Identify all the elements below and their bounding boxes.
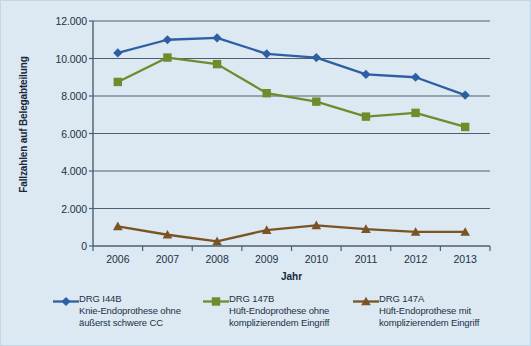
x-tick-label-2007: 2007: [156, 253, 179, 265]
legend-series-name: DRG 147A: [379, 293, 424, 304]
legend-desc-line-1: Hüft-Endoprothese ohne: [229, 305, 353, 317]
legend-desc-line-2: komplizierendem Eingriff: [379, 317, 503, 329]
legend-entry-2[interactable]: DRG 147BHüft-Endoprothese ohnekomplizier…: [203, 292, 353, 328]
legend-series-description: Hüft-Endoprothese mitkomplizierendem Ein…: [379, 305, 503, 328]
data-point-marker: [312, 53, 321, 62]
series-line: [118, 38, 465, 95]
y-tick-label: 12.000: [55, 15, 87, 27]
legend-desc-line-2: komplizierendem Eingriff: [229, 317, 353, 329]
data-point-marker: [163, 53, 171, 61]
data-point-marker: [312, 97, 320, 105]
y-tick-label: 8.000: [61, 90, 87, 102]
series-2: [114, 53, 470, 131]
x-axis-title: Jahr: [93, 271, 490, 282]
legend-triangle-marker-icon: [353, 293, 379, 304]
legend-desc-line-1: Knie-Endoprothese ohne: [79, 305, 203, 317]
legend-series-description: Knie-Endoprothese ohneäußerst schwere CC: [79, 305, 203, 328]
x-tick-label-2009: 2009: [255, 253, 278, 265]
y-axis-title: Fallzahlen auf Belegabteilung: [18, 30, 29, 220]
legend-series-name: DRG 147B: [229, 293, 274, 304]
x-tick-label-2013: 2013: [454, 253, 477, 265]
y-tick-label: 0: [81, 240, 87, 252]
legend-head: DRG 147B: [203, 292, 353, 304]
data-point-marker: [461, 90, 470, 99]
series-1: [113, 33, 470, 99]
legend-entry-1[interactable]: DRG I44BKnie-Endoprothese ohneäußerst sc…: [53, 292, 203, 328]
data-point-marker: [61, 296, 70, 305]
data-point-marker: [163, 35, 172, 44]
y-tick-label: 6.000: [61, 128, 87, 140]
data-point-marker: [113, 48, 122, 57]
x-tick-label-2012: 2012: [404, 253, 427, 265]
x-tick-label-2010: 2010: [305, 253, 328, 265]
legend-series-description: Hüft-Endoprothese ohnekomplizierendem Ei…: [229, 305, 353, 328]
data-point-marker: [262, 49, 271, 58]
legend-series-name: DRG I44B: [79, 293, 122, 304]
data-point-marker: [212, 297, 220, 305]
plot-area: [93, 21, 490, 246]
chart-canvas: [93, 21, 490, 246]
x-tick-label-2008: 2008: [205, 253, 228, 265]
data-point-marker: [114, 78, 122, 86]
chart-legend: DRG I44BKnie-Endoprothese ohneäußerst sc…: [53, 292, 503, 328]
y-tick-label: 10.000: [55, 53, 87, 65]
series-3: [113, 221, 470, 246]
x-tick-label-2011: 2011: [355, 253, 378, 265]
data-point-marker: [212, 33, 221, 42]
legend-entry-3[interactable]: DRG 147AHüft-Endoprothese mitkompliziere…: [353, 292, 503, 328]
data-point-marker: [461, 123, 469, 131]
data-point-marker: [262, 89, 270, 97]
data-point-marker: [411, 109, 419, 117]
legend-head: DRG 147A: [353, 292, 503, 304]
legend-desc-line-2: äußerst schwere CC: [79, 317, 203, 329]
chart-figure: 02.0004.0006.0008.00010.00012.000 Fallza…: [0, 0, 531, 346]
y-tick-label: 2.000: [61, 203, 87, 215]
x-tick-label-2006: 2006: [106, 253, 129, 265]
data-point-marker: [361, 70, 370, 79]
y-tick-label: 4.000: [61, 165, 87, 177]
legend-desc-line-1: Hüft-Endoprothese mit: [379, 305, 503, 317]
legend-head: DRG I44B: [53, 292, 203, 304]
data-point-marker: [411, 73, 420, 82]
legend-diamond-marker-icon: [53, 293, 79, 304]
data-point-marker: [362, 112, 370, 120]
legend-square-marker-icon: [203, 293, 229, 304]
data-point-marker: [213, 60, 221, 68]
